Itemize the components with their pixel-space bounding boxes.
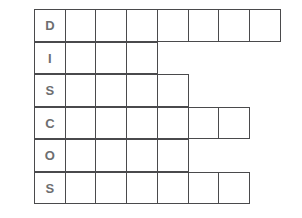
puzzle-cell[interactable] [157, 172, 189, 205]
puzzle-cell[interactable] [157, 139, 189, 172]
puzzle-row-cells: O [34, 141, 189, 172]
puzzle-row-cells: D [34, 11, 281, 42]
puzzle-cell[interactable] [126, 139, 158, 172]
puzzle-cell[interactable] [65, 107, 97, 140]
puzzle-cell[interactable] [157, 107, 189, 140]
puzzle-cell[interactable] [188, 107, 220, 140]
puzzle-cell-keyword[interactable]: S [34, 74, 66, 107]
puzzle-cell[interactable] [126, 107, 158, 140]
puzzle-cell[interactable] [157, 74, 189, 107]
puzzle-cell[interactable] [249, 9, 281, 42]
puzzle-cell[interactable] [65, 74, 97, 107]
puzzle-row-cells: S [34, 76, 189, 107]
puzzle-cell[interactable] [188, 9, 220, 42]
puzzle-cell-keyword[interactable]: O [34, 139, 66, 172]
puzzle-cell[interactable] [95, 107, 127, 140]
puzzle-cell[interactable] [95, 74, 127, 107]
puzzle-cell[interactable] [218, 172, 250, 205]
puzzle-cell[interactable] [126, 172, 158, 205]
puzzle-cell[interactable] [126, 42, 158, 75]
puzzle-cell[interactable] [95, 172, 127, 205]
puzzle-cell[interactable] [218, 107, 250, 140]
puzzle-row-cells: I [34, 43, 158, 74]
puzzle-cell[interactable] [157, 9, 189, 42]
puzzle-cell[interactable] [65, 9, 97, 42]
puzzle-cell-keyword[interactable]: C [34, 107, 66, 140]
puzzle-cell[interactable] [188, 172, 220, 205]
puzzle-cell[interactable] [95, 42, 127, 75]
puzzle-cell[interactable] [218, 9, 250, 42]
puzzle-cell[interactable] [126, 74, 158, 107]
puzzle-cell[interactable] [95, 139, 127, 172]
puzzle-cell[interactable] [65, 42, 97, 75]
puzzle-cell-keyword[interactable]: S [34, 172, 66, 205]
puzzle-cell[interactable] [65, 139, 97, 172]
puzzle-cell[interactable] [95, 9, 127, 42]
puzzle-row-cells: S [34, 173, 250, 204]
puzzle-cell-keyword[interactable]: I [34, 42, 66, 75]
puzzle-cell[interactable] [65, 172, 97, 205]
crossword-puzzle: 1.D2.I3.S4.C5.O6.S [0, 0, 302, 218]
puzzle-row-cells: C [34, 108, 250, 139]
puzzle-cell[interactable] [126, 9, 158, 42]
puzzle-cell-keyword[interactable]: D [34, 9, 66, 42]
